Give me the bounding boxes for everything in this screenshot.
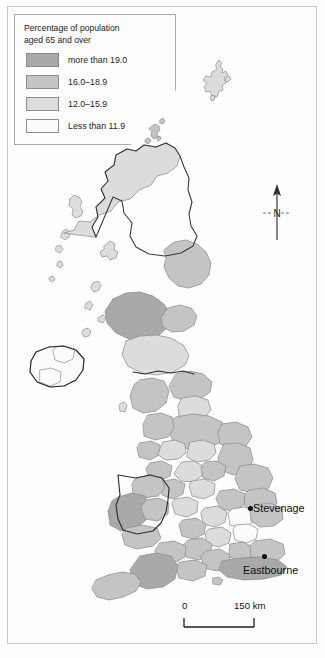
map-figure: Percentage of population aged 65 and ove… <box>0 0 325 658</box>
region-greater-london <box>233 524 258 543</box>
city-label-eastbourne: Eastbourne <box>243 564 298 576</box>
region-cumbria <box>130 378 169 413</box>
region-cornwall <box>92 572 141 600</box>
scale-bar-graphic <box>182 614 307 632</box>
legend-label-less-than-11-9: Less than 11.9 <box>68 121 125 131</box>
region-leicestershire <box>189 479 215 499</box>
region-isle-of-man <box>119 402 127 412</box>
region-dorset <box>176 560 207 581</box>
region-derbyshire <box>174 461 203 482</box>
region-central-belt <box>105 292 171 340</box>
legend-item-12-to-15-9: 12.0–15.9 <box>26 96 107 111</box>
region-gloucestershire <box>179 518 206 539</box>
region-nottinghamshire <box>201 461 226 481</box>
city-dot-eastbourne <box>262 554 267 559</box>
region-grampian <box>164 240 211 288</box>
north-arrow-label: N <box>273 208 280 219</box>
region-highland <box>64 143 180 237</box>
region-isle-of-wight <box>213 577 223 585</box>
region-west-midlands <box>172 497 198 517</box>
scale-bar-start-label: 0 <box>182 600 187 611</box>
scale-bar-end-label: 150 km <box>234 600 265 611</box>
region-outer-hebrides <box>49 195 83 282</box>
region-shetland <box>203 60 231 101</box>
legend-item-less-than-11-9: Less than 11.9 <box>26 118 125 133</box>
legend-item-more-than-19: more than 19.0 <box>26 52 127 67</box>
region-norfolk <box>235 464 273 493</box>
region-mid-wales <box>141 498 169 521</box>
region-merseyside <box>137 441 160 460</box>
legend-title: Percentage of population aged 65 and ove… <box>24 23 172 46</box>
north-arrow: N <box>258 182 296 244</box>
swatch-12-to-15-9 <box>26 97 59 111</box>
swatch-less-than-11-9 <box>26 119 59 133</box>
region-southern-scotland <box>122 335 189 375</box>
legend-title-line1: Percentage of population <box>24 23 120 33</box>
region-lancashire <box>143 413 174 440</box>
legend-label-more-than-19: more than 19.0 <box>68 55 127 65</box>
region-greater-manchester <box>158 440 186 460</box>
city-label-stevenage: Stevenage <box>253 502 305 514</box>
legend-label-12-to-15-9: 12.0–15.9 <box>68 99 107 109</box>
region-northern-ireland <box>30 346 84 387</box>
region-south-yorkshire <box>187 440 216 462</box>
legend-title-line2: aged 65 and over <box>24 35 91 45</box>
legend-label-16-to-18-9: 16.0–18.9 <box>68 77 107 87</box>
swatch-more-than-19 <box>26 53 59 67</box>
swatch-16-to-18-9 <box>26 75 59 89</box>
scale-bar: 0 150 km <box>182 600 307 634</box>
legend-item-16-to-18-9: 16.0–18.9 <box>26 74 107 89</box>
